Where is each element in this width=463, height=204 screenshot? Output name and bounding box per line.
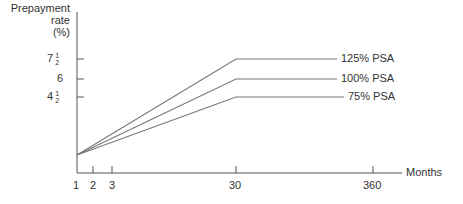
series-label-75: 75% PSA (348, 90, 395, 102)
series-75-psa (77, 97, 344, 155)
y-tick-label-4.5: 412 (47, 90, 59, 104)
ylabel-line-2: rate (11, 14, 70, 26)
series-label-100: 100% PSA (341, 72, 394, 84)
ylabel-line-3: (%) (11, 26, 70, 38)
series-100-psa (77, 79, 337, 155)
y-axis-label: Prepayment rate (%) (11, 2, 70, 38)
x-tick-label-3: 3 (109, 179, 115, 191)
y-tick-label-7.5: 712 (47, 52, 59, 66)
x-tick-label-1: 1 (73, 179, 79, 191)
x-tick-label-360: 360 (363, 179, 381, 191)
ylabel-line-1: Prepayment (11, 2, 70, 14)
x-tick-label-2: 2 (90, 179, 96, 191)
series-label-125: 125% PSA (341, 52, 394, 64)
x-axis-label: Months (406, 166, 442, 178)
y-tick-label-6: 6 (57, 72, 63, 84)
x-tick-label-30: 30 (229, 179, 241, 191)
